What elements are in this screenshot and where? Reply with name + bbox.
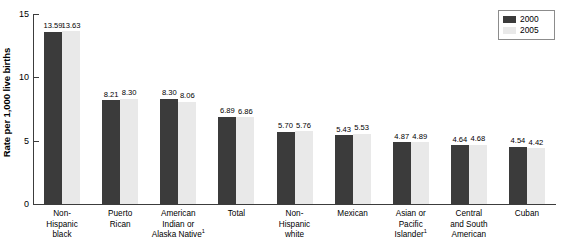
y-axis-title: Rate per 1,000 live births — [0, 0, 14, 205]
bar-2000[interactable]: 4.54 — [509, 147, 527, 205]
bar-value-label: 4.87 — [394, 133, 409, 141]
bar-value-label: 13.59 — [44, 22, 63, 30]
footnote-marker: 1 — [202, 228, 205, 234]
bar-value-label: 4.64 — [452, 136, 467, 144]
legend-label: 2000 — [520, 14, 539, 25]
bar-group: 13.5913.63 — [44, 14, 80, 204]
bar-chart: Rate per 1,000 live births 051015 13.591… — [0, 0, 563, 252]
legend-swatch-2000 — [503, 16, 516, 23]
bar-2005[interactable]: 6.86 — [236, 117, 254, 204]
bar-2000[interactable]: 8.30 — [160, 99, 178, 204]
y-tick-label: 10 — [19, 73, 29, 82]
y-axis-line — [33, 14, 34, 205]
bar-group: 8.218.30 — [102, 14, 138, 204]
bar-2005[interactable]: 4.42 — [527, 148, 545, 204]
bar-2000[interactable]: 4.64 — [451, 145, 469, 204]
y-tick-label: 0 — [24, 200, 29, 209]
bar-2005[interactable]: 5.76 — [295, 131, 313, 204]
bar-group: 5.435.53 — [335, 14, 371, 204]
bar-value-label: 4.89 — [412, 133, 427, 141]
footnote-marker: 1 — [424, 228, 427, 234]
bar-value-label: 8.06 — [180, 92, 195, 100]
bar-2000[interactable]: 6.89 — [218, 117, 236, 204]
bar-value-label: 13.63 — [62, 22, 81, 30]
bar-2000[interactable]: 8.21 — [102, 100, 120, 204]
bar-value-label: 6.89 — [220, 107, 235, 115]
legend-label: 2005 — [520, 25, 539, 36]
legend: 20002005 — [498, 10, 555, 40]
bar-2000[interactable]: 5.70 — [277, 132, 295, 204]
y-tick-mark — [34, 14, 39, 15]
bar-value-label: 5.53 — [354, 124, 369, 132]
bar-2005[interactable]: 13.63 — [62, 31, 80, 204]
bar-value-label: 4.54 — [511, 137, 526, 145]
bar-2000[interactable]: 5.43 — [335, 135, 353, 204]
bar-value-label: 5.76 — [296, 122, 311, 130]
bar-value-label: 6.86 — [238, 108, 253, 116]
bar-group: 4.544.42 — [509, 14, 545, 204]
bar-group: 4.644.68 — [451, 14, 487, 204]
bar-2000[interactable]: 13.59 — [44, 32, 62, 204]
bar-value-label: 4.68 — [470, 135, 485, 143]
legend-swatch-2005 — [503, 27, 516, 34]
y-tick-label: 15 — [19, 10, 29, 19]
bar-value-label: 8.21 — [104, 91, 119, 99]
bar-2005[interactable]: 8.30 — [120, 99, 138, 204]
bar-value-label: 4.42 — [529, 139, 544, 147]
bar-2005[interactable]: 4.68 — [469, 145, 487, 204]
bar-2005[interactable]: 5.53 — [353, 134, 371, 204]
legend-item-2000[interactable]: 2000 — [503, 14, 550, 25]
bar-2005[interactable]: 4.89 — [411, 142, 429, 204]
y-tick-mark — [34, 204, 39, 205]
bar-2005[interactable]: 8.06 — [178, 102, 196, 204]
bar-value-label: 5.70 — [278, 122, 293, 130]
x-axis-line — [33, 204, 556, 205]
plot-area: 051015 13.5913.638.218.308.308.066.896.8… — [33, 14, 556, 205]
x-category-label: Cuban — [492, 209, 562, 220]
bar-value-label: 8.30 — [162, 89, 177, 97]
legend-item-2005[interactable]: 2005 — [503, 25, 550, 36]
y-tick-label: 5 — [24, 137, 29, 146]
bar-group: 4.874.89 — [393, 14, 429, 204]
y-tick-mark — [34, 141, 39, 142]
y-tick-mark — [34, 77, 39, 78]
bar-2000[interactable]: 4.87 — [393, 142, 411, 204]
bar-group: 6.896.86 — [218, 14, 254, 204]
bar-group: 8.308.06 — [160, 14, 196, 204]
bar-group: 5.705.76 — [277, 14, 313, 204]
bar-value-label: 8.30 — [122, 89, 137, 97]
bar-value-label: 5.43 — [336, 126, 351, 134]
